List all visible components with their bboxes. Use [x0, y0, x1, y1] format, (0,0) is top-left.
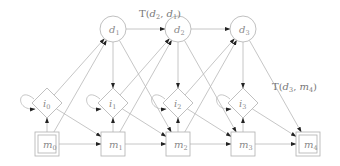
node-d3[interactable]: d3	[230, 16, 256, 42]
node-i2[interactable]: i2	[163, 88, 193, 118]
edge-i1-to-d2	[120, 39, 169, 95]
edges-layer	[21, 29, 302, 144]
edge-i3-to-m4	[252, 109, 296, 137]
node-i0[interactable]: i0	[32, 88, 62, 118]
node-m1[interactable]: m1	[101, 132, 125, 156]
edge-i0-to-m1	[56, 109, 101, 137]
node-m3[interactable]: m3	[231, 132, 255, 156]
node-d1[interactable]: d1	[100, 16, 126, 42]
edge-label-0: T(d2, d1)	[139, 8, 181, 21]
node-i3[interactable]: i3	[228, 88, 258, 118]
edge-i2-to-d3	[185, 39, 234, 95]
edge-i0-to-d1	[54, 39, 104, 95]
node-d2[interactable]: d2	[165, 16, 191, 42]
state-diagram: d1d2d3i0i1i2i3m0m1m2m3m4 T(d2, d1)T(d3, …	[0, 0, 340, 166]
edge-i1-to-m2	[122, 109, 166, 137]
edge-i2-to-m3	[187, 109, 231, 137]
node-m0[interactable]: m0	[35, 132, 59, 156]
node-i1[interactable]: i1	[98, 88, 128, 118]
node-m2[interactable]: m2	[166, 132, 190, 156]
node-m4[interactable]: m4	[296, 132, 320, 156]
